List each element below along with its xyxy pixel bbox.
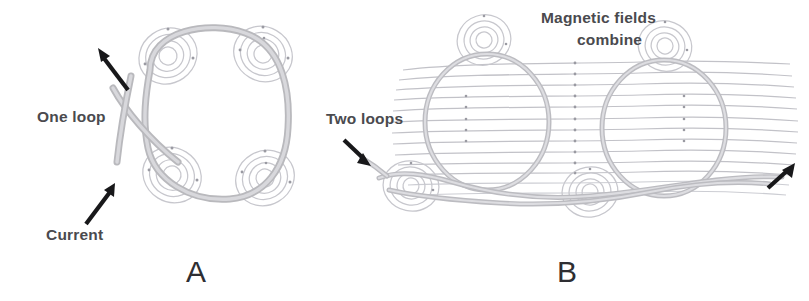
figure-container: One loop Current A bbox=[0, 0, 809, 301]
label-two-loops: Two loops bbox=[326, 110, 403, 127]
label-magnetic-fields-line2: combine bbox=[577, 31, 642, 48]
magnetic-field-diagram: One loop Current A bbox=[0, 0, 809, 301]
panel-caption-a: A bbox=[186, 255, 206, 288]
panel-caption-b: B bbox=[557, 255, 577, 288]
label-magnetic-fields-line1: Magnetic fields bbox=[541, 9, 656, 26]
label-one-loop: One loop bbox=[37, 108, 106, 125]
label-current: Current bbox=[46, 226, 103, 243]
